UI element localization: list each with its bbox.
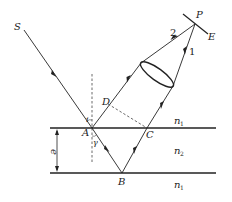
label-thickness-e: e [49, 149, 60, 155]
label-c: C [146, 129, 154, 140]
arrow-icon [183, 46, 187, 55]
label-b: B [117, 176, 125, 187]
wavefront-cd [108, 104, 147, 128]
label-angle-gamma: γ [93, 138, 98, 147]
label-e-screen: E [207, 31, 216, 42]
arrow-icon [55, 129, 59, 135]
label-d: D [101, 96, 110, 107]
label-ray-1: 1 [189, 46, 195, 57]
label-n2-sub: 2 [180, 150, 184, 157]
label-a: A [81, 127, 89, 138]
label-n1-bottom-sub: 1 [180, 184, 184, 191]
arrow-icon [51, 70, 57, 77]
arrow-icon [55, 166, 59, 172]
arrow-icon [104, 145, 110, 152]
label-angle-i: i [86, 115, 89, 124]
ray-1-lower [147, 86, 173, 128]
thin-film-diagram: S A B C D P E i γ 2 1 e n 1 n 2 n 1 [0, 0, 232, 202]
label-ray-2: 2 [170, 27, 176, 38]
arrow-icon [127, 75, 132, 83]
lens [137, 58, 176, 91]
incident-ray [24, 30, 92, 128]
label-s: S [14, 21, 21, 32]
label-n1-top-sub: 1 [180, 120, 184, 127]
label-p: P [195, 9, 203, 20]
ray-2-lower [92, 63, 141, 128]
arrow-icon [160, 101, 164, 109]
ray-2-upper [141, 24, 195, 63]
angle-gamma-arc [92, 135, 97, 136]
